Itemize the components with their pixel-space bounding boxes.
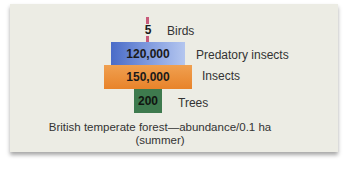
insects-label: Insects [202, 69, 240, 83]
trees-label: Trees [178, 96, 208, 110]
caption-line-2: (summer) [40, 134, 280, 147]
predatory-insects-bar: 120,000 [111, 42, 185, 65]
birds-value: 5 [142, 24, 154, 36]
predatory-insects-value: 120,000 [126, 47, 169, 61]
birds-label: Birds [167, 24, 194, 38]
insects-bar: 150,000 [104, 65, 192, 89]
insects-value: 150,000 [126, 70, 169, 84]
predatory-insects-label: Predatory insects [196, 48, 289, 62]
trees-bar: 200 [134, 89, 162, 113]
trees-value: 200 [138, 94, 158, 108]
caption-line-1: British temperate forest—abundance/0.1 h… [40, 121, 280, 134]
figure-caption: British temperate forest—abundance/0.1 h… [40, 121, 280, 147]
